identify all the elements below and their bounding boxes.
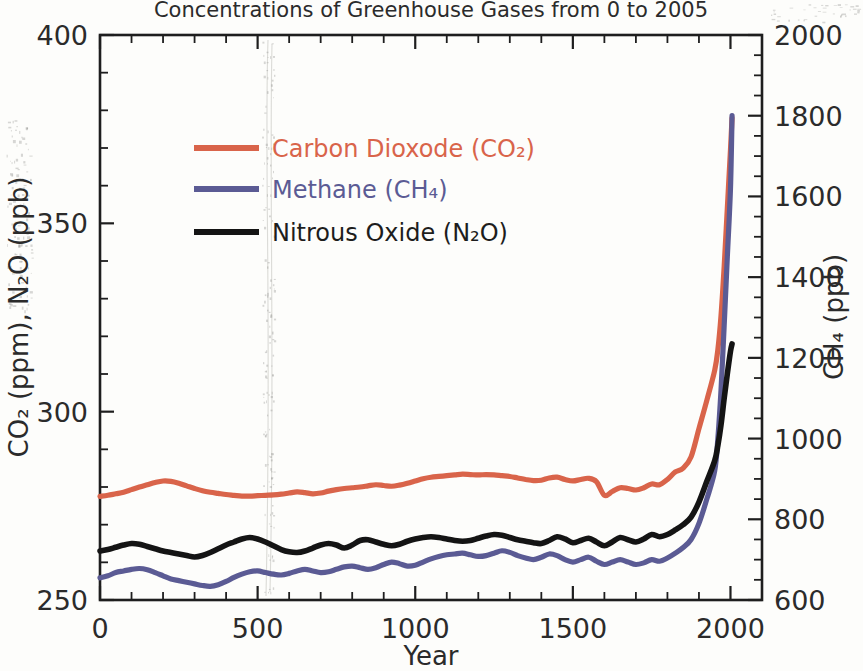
legend-label-n2o: Nitrous Oxide (N₂O) bbox=[272, 219, 508, 247]
y-tick-right: 2000 bbox=[774, 20, 843, 51]
greenhouse-gas-concentration-chart: Concentrations of Greenhouse Gases from … bbox=[0, 0, 863, 671]
x-axis-label: Year bbox=[402, 641, 458, 671]
y-axis-right-label: CH₄ (ppb) bbox=[819, 254, 849, 380]
x-tick: 0 bbox=[91, 613, 108, 644]
y-tick-left: 350 bbox=[36, 208, 88, 239]
chart-figure: Concentrations of Greenhouse Gases from … bbox=[0, 0, 863, 671]
y-axis-left-label: CO₂ (ppm), N₂O (ppb) bbox=[4, 177, 34, 458]
y-tick-left: 250 bbox=[36, 585, 88, 616]
y-tick-right: 1800 bbox=[774, 101, 843, 132]
legend-label-ch4: Methane (CH₄) bbox=[272, 176, 448, 204]
x-tick: 500 bbox=[232, 613, 284, 644]
y-tick-right: 1600 bbox=[774, 181, 843, 212]
x-tick: 1000 bbox=[381, 613, 450, 644]
y-tick-right: 600 bbox=[774, 585, 826, 616]
chart-title: Concentrations of Greenhouse Gases from … bbox=[154, 0, 708, 22]
y-tick-right: 1000 bbox=[774, 424, 843, 455]
y-tick-left: 400 bbox=[36, 20, 88, 51]
y-tick-right: 800 bbox=[774, 504, 826, 535]
y-tick-left: 300 bbox=[36, 397, 88, 428]
x-tick: 2000 bbox=[696, 613, 765, 644]
x-tick: 1500 bbox=[538, 613, 607, 644]
legend-label-co2: Carbon Dioxode (CO₂) bbox=[272, 135, 535, 163]
